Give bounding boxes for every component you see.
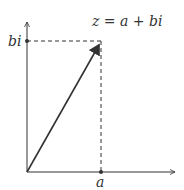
complex-plane-diagram: z = a + bi bi a xyxy=(0,0,184,190)
z-label: z = a + bi xyxy=(91,13,162,29)
y-tick-dot xyxy=(25,39,29,43)
vector-arrow xyxy=(27,45,99,172)
bi-label: bi xyxy=(8,33,21,49)
a-label: a xyxy=(96,174,104,190)
